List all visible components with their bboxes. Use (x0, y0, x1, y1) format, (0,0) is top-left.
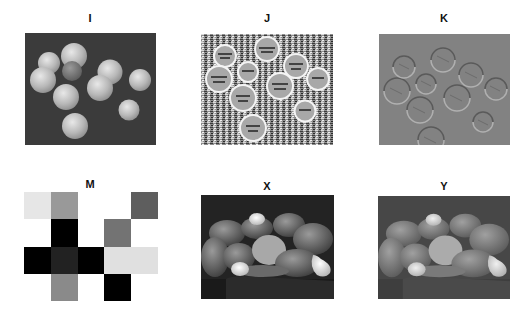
panel-title-k: K (424, 12, 464, 24)
matrix-cell (78, 247, 105, 275)
matrix-cell (131, 247, 158, 275)
matrix-cell (24, 274, 51, 301)
matrix-cell (131, 192, 158, 220)
panel-title-y: Y (424, 180, 464, 192)
image-x-peppers (201, 195, 334, 299)
matrix-cell (131, 219, 158, 247)
matrix-cell (78, 219, 105, 247)
matrix-cell (78, 274, 105, 301)
matrix-cell (24, 247, 51, 275)
matrix-cell (104, 192, 131, 220)
matrix-cell (24, 219, 51, 247)
panel-title-x: X (247, 180, 287, 192)
image-m-matrix (24, 192, 158, 301)
panel-title-i: I (70, 12, 110, 24)
matrix-cell (104, 274, 131, 301)
matrix-cell (51, 274, 78, 301)
image-i-coins (25, 33, 156, 145)
matrix-cell (78, 192, 105, 220)
matrix-cell (104, 219, 131, 247)
panel-title-j: J (247, 12, 287, 24)
image-j-filtered-coins (201, 34, 333, 145)
matrix-cell (104, 247, 131, 275)
matrix-cell (131, 274, 158, 301)
image-y-peppers-low-contrast (378, 196, 510, 299)
image-k-embossed-coins (379, 34, 510, 145)
matrix-cell (24, 192, 51, 220)
matrix-cell (51, 192, 78, 220)
matrix-cell (51, 219, 78, 247)
matrix-cell (51, 247, 78, 275)
panel-title-m: M (70, 178, 110, 190)
